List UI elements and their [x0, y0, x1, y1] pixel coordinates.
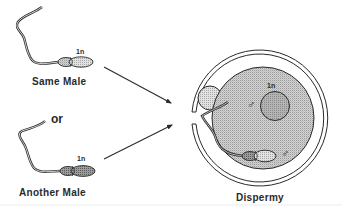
or-connector: or: [51, 112, 63, 126]
male-symbol-sperm: ♂: [281, 147, 289, 159]
dispermy-diagram: 1n Same Male or 1n Another Male 1n ♂: [0, 0, 342, 213]
label-same-male: Same Male: [32, 76, 87, 87]
pronucleus-ploidy-label: 1n: [267, 82, 275, 89]
label-dispermy: Dispermy: [236, 192, 284, 203]
ploidy-label-top: 1n: [76, 48, 84, 55]
sperm-tail: [17, 7, 59, 64]
ploidy-label-bottom: 1n: [77, 155, 85, 162]
arrow-top: [104, 67, 171, 103]
arrow-bottom: [104, 125, 172, 159]
label-another-male: Another Male: [19, 187, 86, 198]
sperm-tail: [19, 121, 61, 172]
male-symbol-pronucleus: ♂: [247, 98, 255, 110]
egg: 1n ♂ ♂ Dispermy: [192, 50, 328, 203]
male-pronucleus: [261, 92, 290, 121]
sperm-same-male: 1n Same Male: [17, 7, 93, 87]
sperm-another-male: 1n Another Male: [19, 121, 95, 198]
